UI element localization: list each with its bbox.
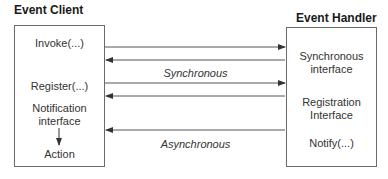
arrows-layer	[0, 0, 388, 179]
